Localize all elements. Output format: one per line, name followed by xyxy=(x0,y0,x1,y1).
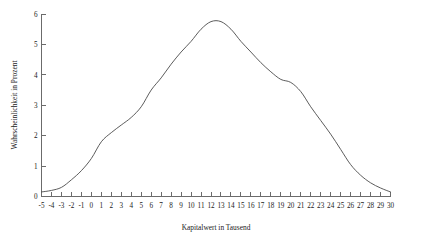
x-axis-title: Kapitalwert in Tausend xyxy=(182,223,251,232)
x-tick-label: 27 xyxy=(357,202,365,210)
x-tick-label: 3 xyxy=(119,202,123,210)
x-tick-label: 8 xyxy=(169,202,173,210)
x-tick-label: 23 xyxy=(317,202,325,210)
y-tick-label: 2 xyxy=(34,132,38,140)
x-tick-label: 15 xyxy=(237,202,245,210)
y-tick-label: 1 xyxy=(34,163,38,171)
x-tick-label: 13 xyxy=(217,202,225,210)
x-tick-label: 0 xyxy=(90,202,94,210)
x-tick-label: 26 xyxy=(347,202,355,210)
x-tick-label: 25 xyxy=(337,202,345,210)
x-tick-label: 30 xyxy=(387,202,395,210)
probability-distribution-chart: 0123456 Wahrscheinlichkeit in Prozent -5… xyxy=(0,0,421,241)
y-tick-label: 6 xyxy=(34,11,38,19)
x-tick-label: -3 xyxy=(58,202,64,210)
chart-container: 0123456 Wahrscheinlichkeit in Prozent -5… xyxy=(0,0,421,241)
x-tick-label: 28 xyxy=(367,202,375,210)
x-tick-label: -5 xyxy=(39,202,45,210)
x-tick-label: -1 xyxy=(78,202,84,210)
x-tick-label: 6 xyxy=(149,202,153,210)
x-tick-label: 24 xyxy=(327,202,335,210)
x-tick-label: 19 xyxy=(277,202,285,210)
y-axis-title: Wahrscheinlichkeit in Prozent xyxy=(10,60,19,150)
x-tick-label: 16 xyxy=(247,202,255,210)
x-tick-label: 1 xyxy=(100,202,104,210)
x-tick-label: 14 xyxy=(227,202,235,210)
x-tick-label: 9 xyxy=(179,202,183,210)
x-tick-label: 11 xyxy=(198,202,205,210)
x-tick-label: 12 xyxy=(207,202,215,210)
x-tick-label: 22 xyxy=(307,202,315,210)
x-tick-label: 17 xyxy=(257,202,265,210)
x-tick-label: 2 xyxy=(110,202,114,210)
x-tick-label: 20 xyxy=(287,202,295,210)
x-tick-label: 18 xyxy=(267,202,275,210)
y-tick-label: 4 xyxy=(34,72,38,80)
x-tick-label: 7 xyxy=(159,202,163,210)
x-tick-label: -2 xyxy=(68,202,74,210)
x-tick-label: -4 xyxy=(48,202,54,210)
y-tick-label: 5 xyxy=(34,41,38,49)
x-tick-label: 29 xyxy=(377,202,385,210)
x-tick-label: 4 xyxy=(129,202,133,210)
y-tick-label: 3 xyxy=(34,102,38,110)
x-tick-label: 5 xyxy=(139,202,143,210)
x-tick-label: 21 xyxy=(297,202,305,210)
y-tick-label: 0 xyxy=(34,193,38,201)
x-tick-label: 10 xyxy=(187,202,195,210)
x-axis-tick-labels: -5-4-3-2-1012345678910111213141516171819… xyxy=(39,202,395,210)
